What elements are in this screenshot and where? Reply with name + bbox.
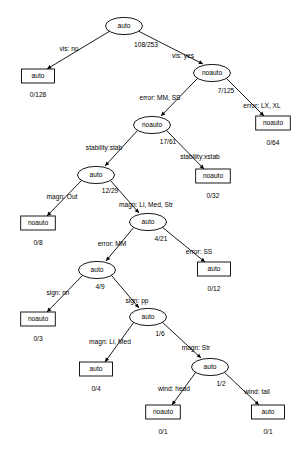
node-count-label: 7/125	[218, 87, 235, 94]
tree-node-noauto[interactable]: noauto	[21, 216, 56, 230]
tree-node-noauto[interactable]: noauto	[196, 169, 231, 183]
node-count-label: 0/64	[267, 139, 280, 146]
edge-condition-label: error: MM	[98, 240, 127, 247]
tree-node-auto[interactable]: auto	[22, 69, 55, 83]
node-count-label: 0/1	[263, 428, 272, 435]
tree-node-noauto[interactable]: noauto	[21, 312, 56, 326]
node-label: noauto	[28, 315, 49, 322]
node-label: noauto	[203, 172, 224, 179]
node-count-label: 4/9	[95, 283, 104, 290]
edge-condition-label: stability:xstab	[180, 153, 220, 161]
node-label: auto	[90, 171, 103, 178]
tree-edge	[226, 78, 264, 116]
node-count-label: 4/21	[155, 235, 168, 242]
node-label: auto	[142, 313, 155, 320]
edge-condition-label: error: SS	[186, 248, 213, 255]
node-label: noauto	[28, 219, 49, 226]
node-label: noauto	[153, 408, 174, 415]
tree-node-auto[interactable]: auto	[130, 308, 167, 325]
edge-condition-label: error: LX, XL	[243, 102, 281, 109]
node-label: auto	[262, 408, 275, 415]
tree-node-auto[interactable]: auto	[78, 166, 115, 183]
edge-condition-label: sign: pp	[125, 297, 148, 305]
edge-condition-label: wind: head	[157, 385, 190, 392]
tree-edge	[110, 180, 139, 213]
edge-condition-label: error: MM, SS	[139, 94, 181, 101]
tree-node-auto[interactable]: auto	[79, 261, 116, 278]
tree-node-auto[interactable]: auto	[252, 405, 285, 419]
node-label: auto	[142, 218, 155, 225]
edge-condition-label: vis: no	[59, 45, 78, 52]
nodes-layer: autoautonoautonoautonoautonoautoautonoau…	[21, 17, 291, 419]
edge-arrowhead	[172, 400, 176, 405]
edge-condition-label: vis: yes	[172, 52, 195, 60]
edge-condition-label: magn: Out	[47, 193, 78, 201]
node-label: auto	[91, 266, 104, 273]
tree-node-auto[interactable]: auto	[80, 362, 113, 376]
node-count-label: 0/3	[33, 335, 42, 342]
tree-node-auto[interactable]: auto	[130, 213, 167, 230]
node-count-label: 1/6	[155, 330, 164, 337]
edge-condition-label: magn: Li, Med, Str	[119, 201, 174, 209]
tree-edge	[162, 227, 205, 262]
node-count-label: 0/32	[207, 192, 220, 199]
node-count-label: 17/61	[160, 138, 177, 145]
node-count-label: 0/128	[30, 91, 47, 98]
edge-condition-label: stability:stab	[86, 144, 123, 152]
node-count-label: 0/8	[33, 239, 42, 246]
tree-node-noauto[interactable]: noauto	[146, 405, 181, 419]
node-count-label: 0/1	[158, 428, 167, 435]
decision-tree-diagram: vis: novis: yeserror: MM, SSerror: LX, X…	[0, 0, 305, 454]
tree-edge	[166, 130, 204, 169]
edge-condition-label: sign: nn	[46, 289, 69, 297]
node-label: auto	[32, 72, 45, 79]
node-count-label: 12/29	[102, 187, 119, 194]
node-label: auto	[118, 22, 131, 29]
tree-node-auto[interactable]: auto	[198, 262, 231, 276]
tree-node-noauto[interactable]: noauto	[194, 64, 231, 81]
node-label: auto	[204, 363, 217, 370]
node-count-label: 0/4	[91, 385, 100, 392]
node-count-label: 108/253	[134, 41, 158, 48]
edge-condition-label: wind: tail	[243, 388, 270, 395]
edge-arrowhead	[105, 357, 109, 362]
node-label: noauto	[263, 119, 284, 126]
tree-node-auto[interactable]: auto	[106, 17, 143, 34]
edge-condition-label: magn: Li, Med	[89, 338, 131, 346]
tree-node-noauto[interactable]: noauto	[134, 116, 171, 133]
node-label: auto	[90, 365, 103, 372]
tree-node-noauto[interactable]: noauto	[256, 116, 291, 130]
tree-edge	[162, 322, 201, 358]
node-count-label: 0/12	[208, 285, 221, 292]
node-label: auto	[208, 265, 221, 272]
node-label: noauto	[202, 69, 223, 76]
node-label: noauto	[142, 121, 163, 128]
edge-condition-label: magn: Str	[182, 344, 211, 352]
tree-canvas: vis: novis: yeserror: MM, SSerror: LX, X…	[0, 0, 305, 454]
tree-node-auto[interactable]: auto	[192, 358, 229, 375]
node-count-label: 1/2	[216, 380, 225, 387]
